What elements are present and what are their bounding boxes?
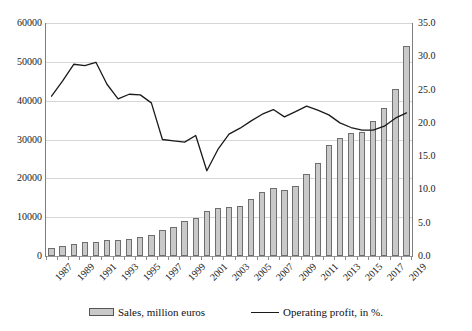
x-axis-tick-labels: 1987198919911993199519971999200120032005… — [0, 258, 472, 300]
x-axis-tick-label: 2019 — [408, 261, 429, 282]
x-axis-tick-label: 2017 — [386, 261, 407, 282]
x-axis-tick-label: 2003 — [230, 261, 251, 282]
right-axis-tick-label: 15.0 — [418, 151, 436, 161]
line-series-operating-profit — [46, 23, 412, 256]
left-axis-tick-label: 50000 — [2, 57, 42, 67]
left-axis-tick-label: 20000 — [2, 173, 42, 183]
right-axis-tick-label: 10.0 — [418, 184, 436, 194]
x-axis-tick-label: 1999 — [186, 261, 207, 282]
legend-item-operating-profit: Operating profit, in %. — [251, 306, 383, 318]
right-axis-tick-label: 20.0 — [418, 118, 436, 128]
x-axis-tick-label: 1997 — [164, 261, 185, 282]
left-axis-tick-label: 60000 — [2, 18, 42, 28]
bar-swatch-icon — [89, 308, 114, 316]
left-axis-tick-label: 10000 — [2, 212, 42, 222]
right-axis-tick-label: 35.0 — [418, 18, 436, 28]
legend-label-operating-profit: Operating profit, in %. — [283, 306, 383, 318]
x-axis-tick-label: 1995 — [142, 261, 163, 282]
legend-item-sales: Sales, million euros — [89, 306, 205, 318]
plot-area — [46, 23, 412, 256]
left-axis-tick-label: 40000 — [2, 96, 42, 106]
x-axis-tick-label: 2013 — [341, 261, 362, 282]
right-axis-tick-label: 5.0 — [418, 218, 431, 228]
right-axis-tick-label: 25.0 — [418, 85, 436, 95]
x-axis-tick-label: 1991 — [97, 261, 118, 282]
operating-profit-polyline — [52, 62, 407, 171]
x-axis-tick-label: 2005 — [252, 261, 273, 282]
chart-legend: Sales, million euros Operating profit, i… — [0, 302, 472, 322]
line-swatch-icon — [251, 312, 279, 313]
x-axis-tick-label: 2007 — [275, 261, 296, 282]
chart-container: 0100002000030000400005000060000 0.05.010… — [0, 0, 472, 331]
x-axis-tick-label: 2001 — [208, 261, 229, 282]
x-axis-tick-label: 2015 — [363, 261, 384, 282]
x-axis-tick-label: 1993 — [119, 261, 140, 282]
right-axis-tick-label: 30.0 — [418, 51, 436, 61]
x-axis-tick-label: 2009 — [297, 261, 318, 282]
legend-label-sales: Sales, million euros — [118, 306, 205, 318]
x-axis-tick-label: 1987 — [53, 261, 74, 282]
left-axis-tick-label: 30000 — [2, 135, 42, 145]
x-axis-tick-label: 2011 — [319, 261, 340, 282]
x-axis-tick-label: 1989 — [75, 261, 96, 282]
right-axis-line — [412, 23, 413, 257]
